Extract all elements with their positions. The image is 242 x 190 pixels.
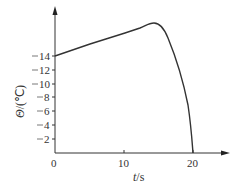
y-tick-10: 10 [39,78,51,90]
temperature-curve [55,23,193,153]
y-tick-6: 6 [44,105,50,117]
x-axis-label: t/s [133,170,145,184]
y-axis-label: Θ/(℃) [13,85,27,118]
chart: 2 4 6 8 10 12 14 0 10 20 t/s Θ/(℃) [0,0,242,190]
y-axis-arrow-icon [53,6,58,15]
y-tick-14: 14 [39,50,51,62]
y-tick-4: 4 [44,119,50,131]
y-tick-labels: 2 4 6 8 10 12 14 [32,50,51,145]
x-axis-arrow-icon [221,151,230,156]
y-tick-8: 8 [44,91,50,103]
x-tick-20: 20 [187,157,199,169]
origin-label: 0 [51,157,57,169]
x-tick-10: 10 [118,157,130,169]
y-tick-2: 2 [44,133,50,145]
y-ticks [52,56,193,153]
y-tick-12: 12 [39,64,50,76]
